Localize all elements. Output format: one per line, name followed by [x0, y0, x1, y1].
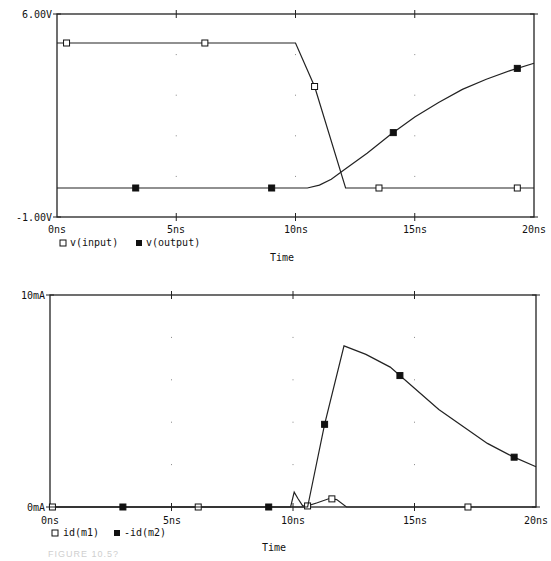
series-line-v(output) [57, 63, 534, 188]
grid-dot [293, 422, 294, 423]
filled-square-marker-icon [266, 504, 272, 510]
chart-canvas: 6.00V -1.00V 0ns 5ns 10ns 15ns 20ns v(in… [0, 0, 551, 561]
grid-dot [293, 379, 294, 380]
grid-dot [414, 422, 415, 423]
top-x-label-5: 5ns [167, 224, 185, 235]
top-legend-output: v(output) [146, 237, 200, 248]
top-series [57, 40, 534, 191]
series-line--id(m2) [50, 346, 536, 507]
grid-dot [414, 135, 415, 136]
bottom-plot: 10mA 0mA 0ns 5ns 10ns 15ns 20ns id(m1) -… [21, 290, 548, 553]
bottom-series [49, 346, 536, 510]
grid-dot [176, 176, 177, 177]
bottom-x-label-10: 10ns [281, 515, 305, 526]
grid-dot [295, 135, 296, 136]
bottom-y-max-label: 10mA [21, 290, 45, 301]
grid-dot [176, 95, 177, 96]
series-line-v(input) [57, 43, 534, 188]
open-square-marker-icon [312, 84, 318, 90]
open-square-marker-icon [329, 496, 335, 502]
grid-dot [414, 464, 415, 465]
grid-dot [414, 54, 415, 55]
top-x-label-15: 15ns [403, 224, 427, 235]
bottom-axis-ticks [46, 291, 540, 511]
grid-dot [414, 337, 415, 338]
bottom-x-label-5: 5ns [163, 515, 181, 526]
top-x-label-10: 10ns [284, 224, 308, 235]
open-square-marker-icon [465, 504, 471, 510]
bottom-legend-m1: id(m1) [63, 527, 99, 538]
open-square-marker-icon [202, 40, 208, 46]
top-y-max-label: 6.00V [22, 9, 52, 20]
bottom-y-min-label: 0mA [27, 502, 45, 513]
top-grid-dots [176, 54, 416, 177]
legend-filled-square-icon [136, 240, 142, 246]
top-legend-input: v(input) [70, 237, 118, 248]
top-x-label-0: 0ns [48, 224, 66, 235]
grid-dot [295, 176, 296, 177]
bottom-x-label-20: 20ns [524, 515, 548, 526]
open-square-marker-icon [64, 40, 70, 46]
grid-dot [171, 337, 172, 338]
filled-square-marker-icon [397, 373, 403, 379]
bottom-plot-frame [50, 295, 536, 507]
legend-open-square-icon [60, 240, 66, 246]
grid-dot [295, 54, 296, 55]
top-y-min-label: -1.00V [16, 212, 52, 223]
grid-dot [293, 464, 294, 465]
grid-dot [171, 379, 172, 380]
grid-dot [171, 422, 172, 423]
top-x-axis-title: Time [270, 252, 294, 263]
filled-square-marker-icon [390, 130, 396, 136]
bottom-x-axis-title: Time [262, 542, 286, 553]
bottom-legend-m2: -id(m2) [124, 527, 166, 538]
filled-square-marker-icon [133, 185, 139, 191]
bottom-x-label-0: 0ns [41, 515, 59, 526]
grid-dot [171, 464, 172, 465]
grid-dot [176, 54, 177, 55]
top-x-label-20: 20ns [522, 224, 546, 235]
figure-caption: FIGURE 10.5? [48, 549, 119, 559]
open-square-marker-icon [376, 185, 382, 191]
top-axis-ticks [53, 10, 538, 221]
grid-dot [295, 95, 296, 96]
grid-dot [414, 176, 415, 177]
filled-square-marker-icon [322, 421, 328, 427]
grid-dot [414, 379, 415, 380]
filled-square-marker-icon [514, 65, 520, 71]
bottom-grid-dots [171, 337, 415, 465]
top-plot: 6.00V -1.00V 0ns 5ns 10ns 15ns 20ns v(in… [16, 9, 546, 263]
legend-filled-square-icon [114, 530, 120, 536]
legend-open-square-icon [52, 530, 58, 536]
bottom-x-label-15: 15ns [403, 515, 427, 526]
filled-square-marker-icon [120, 504, 126, 510]
filled-square-marker-icon [269, 185, 275, 191]
filled-square-marker-icon [511, 454, 517, 460]
grid-dot [293, 337, 294, 338]
grid-dot [176, 135, 177, 136]
grid-dot [414, 95, 415, 96]
open-square-marker-icon [514, 185, 520, 191]
